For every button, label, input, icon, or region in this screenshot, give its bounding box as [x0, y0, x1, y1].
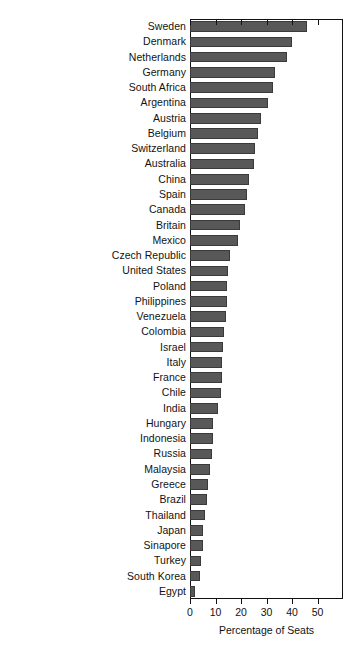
category-label: Britain [36, 220, 186, 231]
category-label: Philippines [36, 296, 186, 307]
bar-row: Greece [0, 477, 354, 492]
bar-rows: SwedenDenmarkNetherlandsGermanySouth Afr… [0, 19, 354, 599]
bar-row: Canada [0, 202, 354, 217]
bar-row: Mexico [0, 233, 354, 248]
bar-row: Poland [0, 278, 354, 293]
category-label: Japan [36, 525, 186, 536]
category-label: India [36, 403, 186, 414]
bar [190, 82, 273, 93]
bar [190, 250, 230, 261]
bar-row: South Africa [0, 80, 354, 95]
category-label: Spain [36, 189, 186, 200]
bar-row: India [0, 401, 354, 416]
category-label: Malaysia [36, 464, 186, 475]
x-tick-bottom [216, 599, 217, 604]
bar-row: Turkey [0, 553, 354, 568]
bar [190, 510, 205, 521]
bar [190, 571, 200, 582]
bar [190, 296, 227, 307]
category-label: Venezuela [36, 311, 186, 322]
x-tick-bottom [267, 599, 268, 604]
category-label: Argentina [36, 97, 186, 108]
bar-row: Hungary [0, 416, 354, 431]
category-label: Israel [36, 342, 186, 353]
bar [190, 311, 226, 322]
category-label: Italy [36, 357, 186, 368]
bar [190, 556, 201, 567]
bar [190, 67, 275, 78]
bar-row: Denmark [0, 34, 354, 49]
bar [190, 372, 222, 383]
bar-row: Indonesia [0, 431, 354, 446]
x-tick-label: 50 [303, 606, 333, 618]
category-label: Denmark [36, 36, 186, 47]
x-tick-bottom [292, 599, 293, 604]
bar [190, 540, 203, 551]
category-label: Chile [36, 387, 186, 398]
bar-row: Spain [0, 187, 354, 202]
bar [190, 418, 213, 429]
bar-row: Sweden [0, 19, 354, 34]
bar [190, 494, 207, 505]
x-tick-top [241, 20, 242, 25]
bar [190, 235, 238, 246]
bar [190, 403, 218, 414]
x-tick-top [216, 20, 217, 25]
category-label: Hungary [36, 418, 186, 429]
bar [190, 479, 208, 490]
bar-row: Argentina [0, 95, 354, 110]
bar [190, 174, 249, 185]
bar [190, 281, 227, 292]
bar-row: Czech Republic [0, 248, 354, 263]
bar [190, 464, 210, 475]
bar-row: Sinapore [0, 538, 354, 553]
x-tick-top [318, 20, 319, 25]
category-label: Canada [36, 204, 186, 215]
bar [190, 98, 268, 109]
bar-row: Colombia [0, 324, 354, 339]
bar-row: Netherlands [0, 50, 354, 65]
bar [190, 189, 247, 200]
bar-row: Thailand [0, 507, 354, 522]
bar-row: Israel [0, 340, 354, 355]
bar [190, 525, 203, 536]
bar-row: Germany [0, 65, 354, 80]
x-tick-top [190, 20, 191, 25]
category-label: Sinapore [36, 540, 186, 551]
bar [190, 449, 212, 460]
x-tick-top [267, 20, 268, 25]
category-label: Czech Republic [36, 250, 186, 261]
bar-row: Chile [0, 385, 354, 400]
bar [190, 143, 255, 154]
category-label: Thailand [36, 510, 186, 521]
category-label: Russia [36, 448, 186, 459]
bar-row: Japan [0, 523, 354, 538]
category-label: South Africa [36, 82, 186, 93]
bar [190, 52, 287, 63]
bar [190, 586, 195, 597]
bar [190, 128, 258, 139]
bar-row: South Korea [0, 568, 354, 583]
bar [190, 37, 292, 48]
bar [190, 204, 245, 215]
bar-row: Brazil [0, 492, 354, 507]
bar [190, 21, 307, 32]
x-tick-bottom [241, 599, 242, 604]
bar-chart: SwedenDenmarkNetherlandsGermanySouth Afr… [0, 0, 354, 648]
bar [190, 220, 240, 231]
category-label: Egypt [36, 586, 186, 597]
bar [190, 342, 223, 353]
bar-row: China [0, 172, 354, 187]
bar-row: Egypt [0, 584, 354, 599]
bar-row: Britain [0, 217, 354, 232]
bar [190, 433, 213, 444]
x-tick-top [292, 20, 293, 25]
bar-row: Belgium [0, 126, 354, 141]
bar [190, 388, 221, 399]
category-label: United States [36, 265, 186, 276]
bar [190, 357, 222, 368]
category-label: Turkey [36, 555, 186, 566]
category-label: France [36, 372, 186, 383]
bar-row: Switzerland [0, 141, 354, 156]
category-label: Colombia [36, 326, 186, 337]
